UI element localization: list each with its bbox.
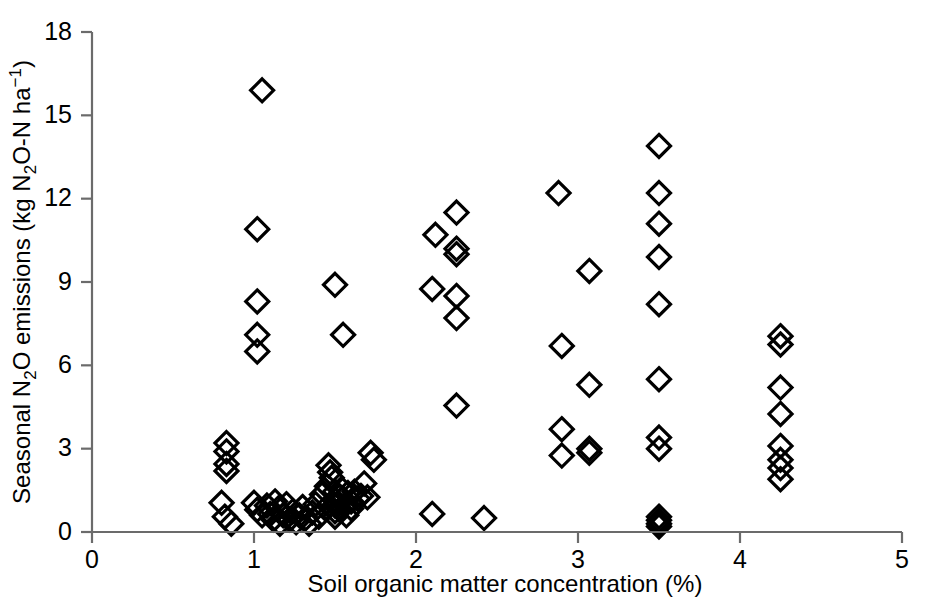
y-tick-label: 0 — [58, 517, 72, 545]
data-point-marker — [769, 333, 792, 356]
data-point-marker — [550, 444, 573, 467]
data-point-marker — [246, 323, 269, 346]
data-point-marker — [424, 223, 447, 246]
data-point-marker — [445, 307, 468, 330]
data-point-marker — [251, 79, 274, 102]
data-point-marker — [421, 502, 444, 525]
data-point-marker — [246, 218, 269, 241]
y-title-subscript-1: 2 — [21, 370, 40, 379]
plot-canvas: 0369121518 012345 Soil organic matter co… — [0, 0, 934, 611]
y-title-part-4: ) — [8, 60, 35, 68]
data-point-marker — [445, 394, 468, 417]
scatter-plot-figure: 0369121518 012345 Soil organic matter co… — [0, 0, 934, 611]
data-point-marker — [648, 293, 671, 316]
y-title-subscript-2: 2 — [21, 165, 40, 174]
data-point-marker — [550, 418, 573, 441]
y-axis-ticks: 0369121518 — [44, 17, 92, 545]
data-markers — [210, 79, 792, 538]
data-point-marker — [332, 323, 355, 346]
data-point-marker — [769, 376, 792, 399]
data-point-marker — [648, 212, 671, 235]
y-tick-label: 12 — [44, 183, 72, 211]
y-title-part-1: Seasonal N — [8, 380, 35, 504]
data-point-marker — [547, 182, 570, 205]
y-title-part-3: O-N ha — [8, 87, 35, 165]
y-axis-title: Seasonal N2O emissions (kg N2O-N ha−1) — [6, 60, 40, 504]
data-point-marker — [648, 182, 671, 205]
y-tick-label: 18 — [44, 17, 72, 45]
data-point-marker — [648, 246, 671, 269]
data-point-marker — [769, 325, 792, 348]
y-axis-title-text: Seasonal N2O emissions (kg N2O-N ha−1) — [6, 60, 40, 504]
x-tick-label: 4 — [733, 545, 747, 573]
data-point-marker — [445, 201, 468, 224]
y-tick-label: 15 — [44, 100, 72, 128]
data-point-marker — [578, 373, 601, 396]
data-point-marker — [769, 434, 792, 457]
x-axis-ticks: 012345 — [85, 532, 909, 573]
x-tick-label: 1 — [247, 545, 261, 573]
data-point-marker — [578, 259, 601, 282]
data-point-marker — [246, 290, 269, 313]
data-point-marker — [324, 273, 347, 296]
y-title-part-2: O emissions (kg N — [8, 174, 35, 370]
data-point-marker — [246, 340, 269, 363]
y-tick-label: 3 — [58, 433, 72, 461]
data-point-marker — [648, 134, 671, 157]
data-point-marker — [648, 368, 671, 391]
y-tick-label: 9 — [58, 267, 72, 295]
y-tick-label: 6 — [58, 350, 72, 378]
data-point-marker — [445, 284, 468, 307]
data-point-marker — [473, 507, 496, 530]
x-axis-title-text: Soil organic matter concentration (%) — [308, 570, 703, 597]
x-tick-label: 0 — [85, 545, 99, 573]
x-tick-label: 5 — [895, 545, 909, 573]
data-point-marker — [550, 334, 573, 357]
data-point-marker — [769, 402, 792, 425]
x-axis-title: Soil organic matter concentration (%) — [308, 570, 703, 597]
data-point-marker — [421, 277, 444, 300]
y-title-superscript-1: −1 — [6, 68, 25, 87]
